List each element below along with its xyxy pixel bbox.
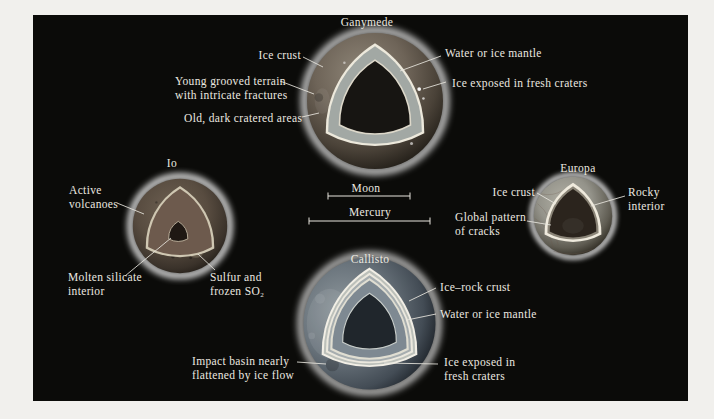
io-moon [121,167,239,285]
ganymede-fresh-crater-spot [422,97,425,100]
europa-graphic [524,167,622,265]
label-callisto-ice-rock-crust: Ice–rock crust [440,281,510,295]
io-graphic [121,167,239,285]
label-ganymede-old-dark: Old, dark cratered areas [184,112,302,126]
moon-scale-label: Moon [352,182,381,196]
europa-interior-texture [562,218,584,234]
label-callisto-ice-exposed: Ice exposed in fresh craters [444,356,515,383]
ganymede-fresh-crater-spot [417,87,421,91]
label-io-active-volcanoes: Active volcanoes [69,184,118,211]
callisto-title: Callisto [351,253,390,267]
ganymede-title: Ganymede [341,16,394,30]
ganymede-moon [290,16,460,186]
label-europa-global-cracks: Global pattern of cracks [455,211,526,238]
callisto-crater [308,333,315,340]
ganymede-fresh-crater-spot [343,61,346,64]
label-ganymede-ice-crust: Ice crust [259,49,301,63]
ganymede-crater [315,93,324,102]
ganymede-graphic [290,16,460,186]
label-europa-ice-crust: Ice crust [493,186,535,200]
label-ganymede-young-grooved: Young grooved terrain with intricate fra… [175,75,288,102]
label-io-sulfur: Sulfur and frozen SO₂ [210,271,264,298]
io-title: Io [167,157,177,171]
label-callisto-impact-basin: Impact basin nearly flattened by ice flo… [192,355,294,382]
label-europa-rocky-interior: Rocky interior [628,186,665,213]
ganymede-fresh-crater-spot [410,142,413,145]
europa-title: Europa [560,162,595,176]
mercury-scale-label: Mercury [349,206,391,220]
callisto-crater [315,294,325,304]
io-volcano-spot [155,201,157,203]
label-ganymede-water-mantle: Water or ice mantle [445,47,542,61]
europa-moon [524,167,622,265]
label-ganymede-ice-exposed: Ice exposed in fresh craters [452,77,588,91]
textbook-page: Ganymede Io Europa Callisto Ice crust Wa… [0,0,714,419]
label-io-molten-silicate: Molten silicate interior [68,271,142,298]
label-callisto-water-mantle: Water or ice mantle [440,308,537,322]
